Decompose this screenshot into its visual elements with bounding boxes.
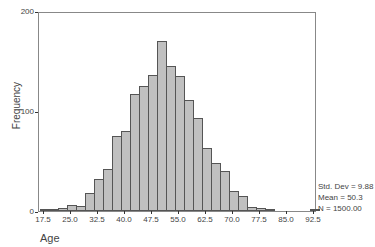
x-tick-mark xyxy=(151,211,152,214)
x-tick-label: 47.5 xyxy=(136,215,166,224)
x-tick-mark xyxy=(124,211,125,214)
histogram-bar xyxy=(265,209,275,211)
x-tick-label: 55.0 xyxy=(163,215,193,224)
x-tick-label: 32.5 xyxy=(82,215,112,224)
x-tick-mark xyxy=(205,211,206,214)
y-tick-mark xyxy=(35,12,38,13)
x-tick-mark xyxy=(97,211,98,214)
x-tick-label: 85.0 xyxy=(271,215,301,224)
x-tick-mark xyxy=(178,211,179,214)
x-tick-label: 17.5 xyxy=(28,215,58,224)
x-tick-mark xyxy=(259,211,260,214)
y-axis-label: Frequency xyxy=(11,76,22,136)
x-tick-mark xyxy=(70,211,71,214)
x-tick-label: 40.0 xyxy=(109,215,139,224)
x-tick-mark xyxy=(286,211,287,214)
x-tick-label: 92.5 xyxy=(298,215,328,224)
x-axis-label: Age xyxy=(40,232,60,244)
x-tick-label: 62.5 xyxy=(190,215,220,224)
x-tick-mark xyxy=(313,211,314,214)
x-tick-label: 77.5 xyxy=(244,215,274,224)
x-tick-label: 70.0 xyxy=(217,215,247,224)
y-tick-label: 200 xyxy=(14,7,34,16)
x-tick-mark xyxy=(43,211,44,214)
x-tick-mark xyxy=(232,211,233,214)
stats-box: Std. Dev = 9.88 Mean = 50.3 N = 1500.00 xyxy=(318,181,373,214)
stat-n: N = 1500.00 xyxy=(318,203,373,214)
y-tick-mark xyxy=(35,112,38,113)
stat-std-dev: Std. Dev = 9.88 xyxy=(318,181,373,192)
y-tick-mark xyxy=(35,212,38,213)
y-tick-label: 100 xyxy=(14,107,34,116)
histogram-plot-area xyxy=(38,12,316,212)
stat-mean: Mean = 50.3 xyxy=(318,192,373,203)
x-tick-label: 25.0 xyxy=(55,215,85,224)
